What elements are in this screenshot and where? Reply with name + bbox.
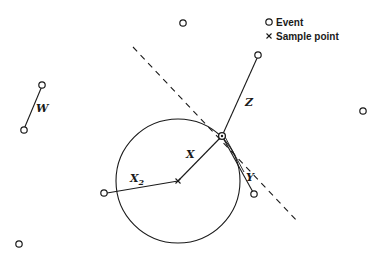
label-w: W — [36, 102, 50, 115]
x-segment — [178, 136, 222, 181]
sample-point-legend-icon — [267, 34, 272, 39]
legend: Event Sample point — [266, 17, 340, 42]
label-y: Y — [246, 171, 255, 184]
event-marker — [101, 190, 107, 196]
event-legend-icon — [266, 19, 272, 25]
legend-event-label: Event — [276, 17, 304, 28]
label-x2: X2 — [129, 172, 145, 187]
y-segment-inner — [224, 135, 244, 172]
label-x: X — [185, 148, 195, 161]
event-marker — [251, 191, 257, 197]
legend-sample-label: Sample point — [276, 31, 339, 42]
event-marker — [39, 82, 45, 88]
event-marker — [255, 52, 261, 58]
nearest-event-dot — [221, 135, 223, 137]
label-z: Z — [244, 96, 254, 109]
nearest-neighbor-diagram: Event Sample point W Z X Y X2 — [0, 0, 385, 278]
event-marker — [21, 127, 27, 133]
dashed-boundary-line — [133, 47, 298, 222]
event-marker — [180, 20, 186, 26]
event-marker — [360, 108, 366, 114]
event-marker — [16, 241, 22, 247]
y-segment — [222, 136, 254, 194]
